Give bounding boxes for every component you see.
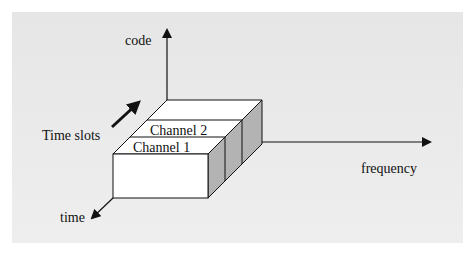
- time-label: time: [60, 210, 85, 225]
- time-axis: [92, 198, 113, 218]
- code-label: code: [125, 33, 151, 48]
- frequency-label: frequency: [361, 161, 417, 176]
- time-slots-arrow: [112, 103, 138, 127]
- channel-2-label: Channel 2: [150, 123, 207, 138]
- tdma-fdma-cdma-diagram: code frequency time Time slots Channel 2…: [0, 0, 473, 256]
- channel-1-label: Channel 1: [133, 140, 190, 155]
- time-slots-label: Time slots: [42, 128, 100, 143]
